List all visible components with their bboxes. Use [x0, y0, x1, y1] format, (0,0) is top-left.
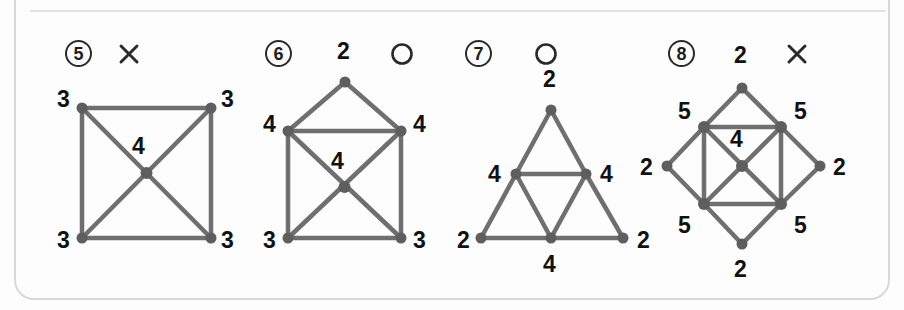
- vertex-label-center: 4: [132, 135, 145, 158]
- vertex-label: 4: [600, 163, 613, 186]
- graph-6: [255, 0, 470, 310]
- vertex: [698, 198, 710, 210]
- vertex: [737, 239, 748, 250]
- vertex-label: 2: [640, 156, 653, 179]
- graph-7: [455, 0, 670, 310]
- vertex: [775, 198, 787, 210]
- vertex: [581, 169, 592, 180]
- vertex: [775, 121, 787, 133]
- vertex-label: 3: [221, 88, 234, 111]
- vertex: [546, 233, 557, 244]
- vertex-label-center: 4: [331, 150, 344, 173]
- vertex-label: 2: [543, 68, 556, 91]
- vertex: [511, 169, 522, 180]
- vertex-center: [141, 167, 153, 179]
- vertex-label: 2: [637, 229, 650, 252]
- vertex-label: 5: [794, 100, 807, 123]
- vertex: [698, 121, 710, 133]
- vertex: [396, 126, 407, 137]
- vertex: [77, 103, 88, 114]
- vertex-label: 5: [678, 214, 691, 237]
- vertex: [283, 126, 294, 137]
- vertex-label: 4: [413, 113, 426, 136]
- vertex: [662, 161, 673, 172]
- problem-6: 6: [255, 0, 470, 310]
- vertex: [206, 233, 217, 244]
- vertex-label: 3: [413, 229, 426, 252]
- vertex: [546, 105, 557, 116]
- vertex-label-center: 4: [730, 128, 743, 151]
- vertex: [340, 77, 351, 88]
- vertex-label: 3: [57, 229, 70, 252]
- vertex-label: 3: [263, 229, 276, 252]
- vertex: [618, 233, 629, 244]
- vertex-label: 3: [221, 229, 234, 252]
- vertex-center: [736, 160, 748, 172]
- vertex-label: 2: [337, 40, 350, 63]
- vertex-label: 4: [263, 113, 276, 136]
- vertex-label: 5: [678, 100, 691, 123]
- worksheet-page: 5: [0, 0, 904, 310]
- problem-7: 7: [455, 0, 670, 310]
- vertex: [815, 161, 826, 172]
- vertex-label: 4: [488, 163, 501, 186]
- vertex-label: 4: [543, 253, 556, 276]
- problem-8: 8: [660, 0, 890, 310]
- vertex: [396, 233, 407, 244]
- vertex-label: 3: [57, 88, 70, 111]
- vertex: [476, 233, 487, 244]
- vertex-label: 2: [457, 229, 470, 252]
- vertex-label: 2: [734, 258, 747, 281]
- vertex-label: 2: [833, 156, 846, 179]
- vertex-label: 2: [734, 44, 747, 67]
- vertex-center: [339, 181, 351, 193]
- vertex: [737, 83, 748, 94]
- vertex: [77, 233, 88, 244]
- graph-8: [660, 0, 890, 310]
- vertex-label: 5: [794, 214, 807, 237]
- vertex: [283, 233, 294, 244]
- problem-5: 5: [40, 0, 260, 310]
- vertex: [206, 103, 217, 114]
